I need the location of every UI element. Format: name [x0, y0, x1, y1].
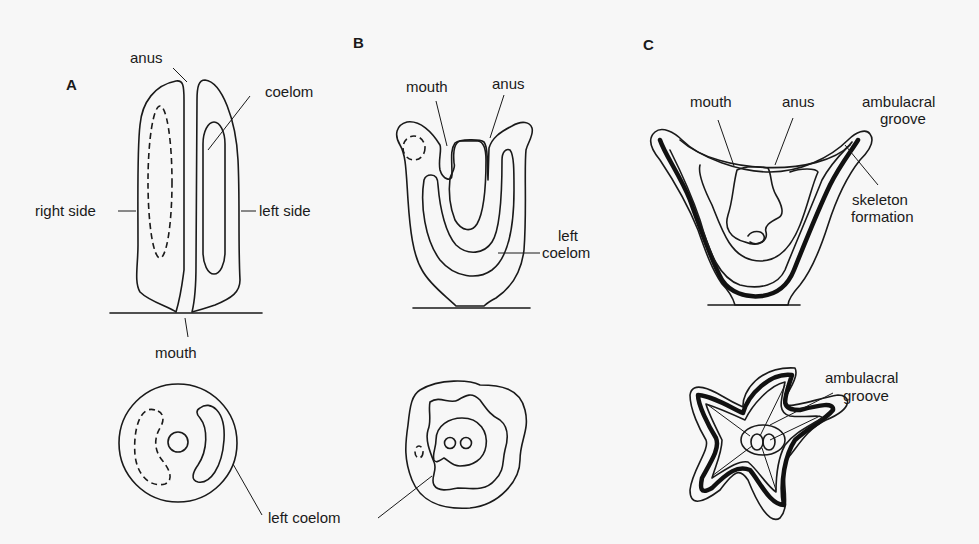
starfish-mouth — [751, 434, 763, 450]
panel-a-letter: A — [66, 76, 77, 93]
label-left-coelom-b-line2: coelom — [542, 244, 590, 261]
panel-c-skeleton — [660, 140, 858, 296]
panel-a: A anus coelom right side left side mouth — [35, 49, 313, 502]
panel-c: C mouth anus ambulacral groove skeleton … — [643, 36, 935, 519]
label-mouth-b: mouth — [406, 78, 448, 95]
label-ambulacral-groove-bottom-line2: groove — [843, 387, 889, 404]
label-coelom-a: coelom — [265, 83, 313, 100]
panel-b-topview-outer — [406, 381, 527, 508]
panel-b-topview-inner-wavy — [427, 395, 507, 490]
panel-a-right-coelom-dashed — [148, 106, 172, 258]
label-ambulacral-groove-c-line1: ambulacral — [862, 93, 935, 110]
label-right-side: right side — [35, 202, 96, 219]
panel-c-letter: C — [643, 36, 654, 53]
label-anus-b: anus — [492, 75, 525, 92]
starfish-groove-1 — [760, 385, 785, 436]
panel-b-topview-anus — [461, 438, 472, 449]
panel-b-outer-body — [397, 122, 533, 306]
panel-a-topview-outline — [119, 384, 237, 502]
panel-c-inner-wall — [670, 142, 852, 287]
panel-a-topview-left-coelom — [193, 405, 224, 482]
label-ambulacral-groove-c-line2: groove — [880, 110, 926, 127]
echinoderm-development-diagram: A anus coelom right side left side mouth… — [0, 0, 979, 544]
panel-b-topview-mouth — [445, 438, 456, 449]
panel-b-topview-right-coelom-dashed — [415, 446, 423, 458]
panel-c-gut-loop — [748, 232, 764, 244]
label-skeleton-formation-line1: skeleton — [852, 191, 908, 208]
label-left-coelom-shared: left coelom — [268, 509, 341, 526]
panel-a-topview-mouth — [168, 432, 188, 452]
panel-a-left-half — [192, 80, 240, 312]
label-anus-a: anus — [130, 49, 163, 66]
panel-b: B mouth anus left coelom left coelom — [233, 34, 590, 526]
panel-a-topview-left-coelom-leader — [233, 464, 262, 515]
label-anus-c: anus — [782, 93, 815, 110]
panel-b-right-coelom-dashed — [403, 136, 425, 160]
panel-b-letter: B — [353, 34, 364, 51]
panel-a-mouth-leader — [185, 318, 188, 337]
label-skeleton-formation-line2: formation — [851, 208, 914, 225]
panel-b-gut — [449, 141, 486, 230]
panel-b-coelom-middle — [423, 149, 514, 275]
panel-c-anus-leader — [775, 118, 793, 165]
label-left-coelom-b-line1: left — [558, 227, 579, 244]
label-left-side: left side — [259, 202, 311, 219]
label-ambulacral-groove-bottom-line1: ambulacral — [825, 369, 898, 386]
panel-a-anus-leader — [173, 68, 187, 82]
panel-a-right-half — [137, 81, 184, 312]
panel-b-mouth-leader — [436, 101, 447, 146]
label-mouth-a: mouth — [155, 344, 197, 361]
label-mouth-c: mouth — [690, 93, 732, 110]
panel-c-mouth-leader — [718, 120, 734, 166]
panel-c-starfish-topview — [690, 368, 847, 520]
panel-a-topview-right-coelom-dashed — [135, 409, 170, 484]
panel-a-coelom-leader — [208, 96, 250, 150]
panel-c-coelom-sac — [700, 165, 819, 261]
panel-a-left-coelom — [203, 122, 225, 274]
panel-c-transverse-line — [680, 140, 850, 168]
panel-c-skeleton-leader — [845, 145, 878, 185]
starfish-anus — [763, 434, 775, 450]
